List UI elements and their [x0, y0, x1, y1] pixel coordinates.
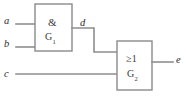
signal-label-b: b	[4, 39, 9, 50]
or-gate-symbol: ≥1	[126, 54, 137, 64]
or-gate-label: G2	[127, 69, 137, 82]
and-gate-label-base: G	[45, 31, 52, 42]
circuit-diagram-canvas: & G1 ≥1 G2 a b c d e	[0, 0, 186, 105]
circuit-schematic-svg	[0, 0, 186, 105]
and-gate-symbol: &	[48, 17, 57, 28]
or-gate-box	[117, 41, 152, 90]
signal-label-a: a	[4, 16, 9, 27]
or-gate-label-base: G	[127, 68, 134, 79]
signal-label-c: c	[4, 69, 9, 80]
signal-label-d: d	[80, 18, 85, 29]
signal-label-e: e	[176, 55, 181, 66]
and-gate-label-subscript: 1	[53, 38, 56, 45]
and-gate-label: G1	[45, 32, 55, 45]
wire-intermediate-d	[72, 28, 117, 52]
or-gate-label-subscript: 2	[135, 75, 138, 82]
